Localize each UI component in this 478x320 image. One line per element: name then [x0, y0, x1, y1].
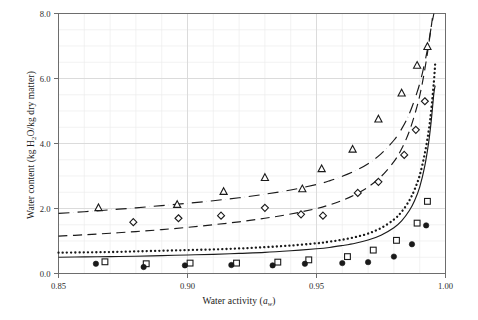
y-axis-title: Water content (kg H2O/kg dry matter) — [26, 20, 36, 270]
solid-curve — [59, 86, 436, 258]
data-point — [270, 263, 275, 268]
water-sorption-isotherm-figure: 0.850.900.951.00 0.02.04.06.08.0 Water a… — [0, 0, 478, 320]
data-point — [421, 98, 428, 105]
data-point — [234, 260, 240, 266]
data-point — [93, 261, 98, 266]
grid-major — [59, 14, 446, 274]
data-point — [302, 261, 307, 266]
data-point — [391, 254, 396, 259]
dotted-curve — [59, 64, 436, 253]
y-tick-label: 0.0 — [7, 269, 51, 279]
data-point — [423, 223, 428, 228]
data-point — [141, 264, 146, 269]
data-point — [275, 259, 281, 265]
axis-ticks — [54, 14, 446, 279]
dashed-curve — [59, 17, 433, 236]
data-point — [414, 220, 420, 226]
data-point — [345, 254, 351, 260]
data-point — [187, 260, 193, 266]
x-axis-title: Water activity (aw) — [0, 296, 478, 306]
chart-canvas — [0, 0, 478, 320]
data-point — [318, 165, 325, 172]
data-point — [299, 185, 306, 192]
x-tick-label: 0.85 — [51, 281, 66, 291]
data-point — [218, 212, 225, 219]
triangle-markers — [95, 43, 431, 211]
y-tick-label: 8.0 — [7, 9, 51, 19]
data-point — [220, 188, 227, 195]
x-tick-label: 1.00 — [438, 281, 453, 291]
data-point — [398, 89, 405, 96]
data-point — [261, 174, 268, 181]
data-point — [375, 115, 382, 122]
data-point — [102, 259, 108, 265]
x-tick-label: 0.90 — [180, 281, 195, 291]
data-point — [229, 262, 234, 267]
data-point — [370, 247, 376, 253]
data-point — [319, 212, 326, 219]
data-point — [409, 242, 414, 247]
data-point — [354, 189, 361, 196]
data-point — [365, 259, 370, 264]
data-point — [95, 204, 102, 211]
data-point — [375, 178, 382, 185]
data-point — [298, 211, 305, 218]
data-point — [349, 145, 356, 152]
data-point — [340, 260, 345, 265]
data-point — [425, 198, 431, 204]
data-point — [394, 237, 400, 243]
x-tick-label: 0.95 — [309, 281, 324, 291]
data-point — [401, 151, 408, 158]
data-point — [261, 204, 268, 211]
data-point — [175, 215, 182, 222]
model-curves — [59, 14, 436, 258]
data-point — [182, 263, 187, 268]
